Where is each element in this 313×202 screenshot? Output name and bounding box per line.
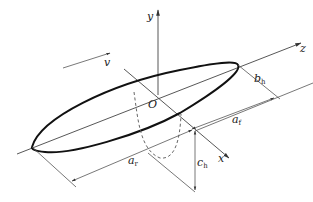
z-axis-label: z [299,42,306,55]
a-f-extension-line [195,83,313,131]
heat-source-diagram: y z x O v bh af ar ch [0,0,313,202]
origin-label: O [148,98,157,111]
a-r-label: ar [128,154,139,168]
y-axis-label: y [146,10,154,23]
velocity-label: v [104,56,111,69]
b-h-label: bh [254,72,266,86]
a-f-label: af [232,113,243,127]
x-axis [124,69,229,158]
velocity-arrow [63,53,110,68]
x-axis-label: x [218,152,225,165]
depth-extension-line [148,153,195,192]
c-h-label: ch [197,156,208,170]
